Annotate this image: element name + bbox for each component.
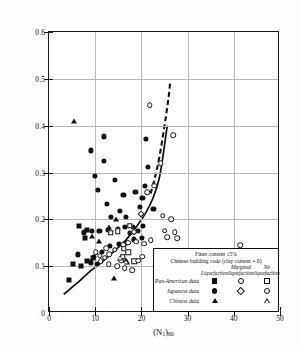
triangle-inner xyxy=(265,300,269,303)
data-point xyxy=(134,239,140,245)
legend-sym-pan-american-liq xyxy=(201,277,228,287)
y-axis-title: Cyclic stress ratio to cause liquefactio… xyxy=(0,0,15,26)
open-circle-icon xyxy=(264,288,270,294)
legend-sym-japanese-marg xyxy=(228,287,254,297)
filled-circle-icon xyxy=(212,288,218,294)
data-point xyxy=(164,234,170,240)
legend-row-chinese: Chinese data xyxy=(155,297,280,307)
y-tick-inner xyxy=(49,79,53,80)
data-point xyxy=(89,234,95,239)
legend-sym-japanese-liq xyxy=(201,287,228,297)
data-point xyxy=(124,259,130,264)
x-axis-title: (N1)60 xyxy=(48,327,279,337)
legend-row-japanese: Japanese data xyxy=(155,287,280,297)
legend-row-pan-american: Pan-American data xyxy=(155,277,280,287)
data-point xyxy=(120,242,126,248)
x-tick-label: 0 xyxy=(47,314,51,323)
legend-header-row: Liquefaction Marginalliquefaction Noliqu… xyxy=(155,265,280,277)
data-point xyxy=(96,239,102,244)
data-point xyxy=(78,264,83,269)
x-tick-inner xyxy=(49,307,50,311)
y-tick-label: 0.6 xyxy=(35,28,45,37)
data-point xyxy=(98,259,104,265)
data-point xyxy=(140,254,146,260)
y-tick-label: 0.3 xyxy=(35,168,45,177)
y-tick-inner xyxy=(49,32,53,33)
data-point xyxy=(125,240,131,246)
legend-header-line1: Fines content ≤5% xyxy=(155,251,277,258)
data-point xyxy=(144,189,150,195)
open-diamond-icon xyxy=(237,287,245,295)
x-tick-label: 50 xyxy=(276,314,284,323)
data-point xyxy=(117,255,123,260)
y-tick-label: 0.2 xyxy=(35,215,45,224)
gridline-horizontal xyxy=(49,219,278,220)
legend-sym-pan-american-marg xyxy=(228,277,254,287)
x-tick-inner xyxy=(95,307,96,311)
data-point xyxy=(170,132,176,138)
legend-sym-chinese-liq xyxy=(201,297,228,307)
data-point xyxy=(160,213,166,219)
data-point xyxy=(162,228,168,234)
legend-sym-chinese-no xyxy=(254,297,280,307)
data-point xyxy=(152,183,158,189)
data-point xyxy=(108,230,114,236)
data-point xyxy=(127,223,133,229)
x-tick-label: 20 xyxy=(138,314,146,323)
y-tick-inner xyxy=(49,266,53,267)
data-point xyxy=(126,249,132,255)
open-triangle-icon xyxy=(264,298,270,303)
figure-liquefaction-chart: Cyclic stress ratio to cause liquefactio… xyxy=(0,0,299,351)
data-point xyxy=(76,224,81,229)
data-point xyxy=(71,119,77,124)
data-point xyxy=(97,253,103,259)
data-point xyxy=(129,267,135,273)
filled-square-icon xyxy=(212,278,217,283)
data-point xyxy=(71,261,76,266)
filled-triangle-icon xyxy=(212,298,218,303)
open-circle-icon xyxy=(238,278,244,284)
legend-sym-pan-american-no xyxy=(254,277,280,287)
gridline-horizontal xyxy=(49,126,278,127)
x-tick-inner xyxy=(141,307,142,311)
x-tick-label: 40 xyxy=(230,314,238,323)
data-point xyxy=(175,235,181,241)
data-point xyxy=(112,247,118,253)
data-point xyxy=(122,265,128,271)
data-point xyxy=(158,160,164,166)
data-point xyxy=(106,261,112,267)
legend-sym-chinese-marg xyxy=(228,297,254,307)
legend-box: Fines content ≤5% Chinese building code … xyxy=(153,248,279,312)
data-point xyxy=(147,102,153,108)
triangle-inner xyxy=(118,257,122,260)
x-tick-label: 30 xyxy=(184,314,192,323)
y-tick-label: 0.5 xyxy=(35,74,45,83)
legend-col-marginal: Marginalliquefaction xyxy=(228,265,254,277)
data-point xyxy=(106,224,112,229)
gridline-vertical xyxy=(95,32,96,311)
legend-label-chinese: Chinese data xyxy=(155,297,201,307)
data-point xyxy=(111,276,117,281)
x-tick-label: 10 xyxy=(91,314,99,323)
gridline-vertical xyxy=(141,32,142,311)
legend-label-pan-american: Pan-American data xyxy=(155,277,201,287)
gridline-horizontal xyxy=(49,79,278,80)
x-tick-inner xyxy=(280,307,281,311)
y-tick-label: 0.1 xyxy=(35,262,45,271)
data-point xyxy=(168,217,174,223)
legend-col-no-liquefaction: Noliquefaction xyxy=(254,265,280,277)
y-tick-label: 0 xyxy=(41,309,45,318)
data-point xyxy=(67,278,72,283)
y-tick-inner xyxy=(49,126,53,127)
legend-col-liquefaction: Liquefaction xyxy=(201,265,228,277)
data-point xyxy=(113,216,119,221)
data-point xyxy=(115,263,121,269)
data-point xyxy=(115,228,121,234)
data-point xyxy=(83,236,88,241)
y-tick-inner xyxy=(49,173,53,174)
legend-sym-japanese-no xyxy=(254,287,280,297)
data-point xyxy=(91,255,96,260)
legend-header-line2: Chinese building code (clay content = 0) xyxy=(155,258,277,265)
gridline-horizontal xyxy=(49,173,278,174)
open-square-icon xyxy=(264,278,270,284)
